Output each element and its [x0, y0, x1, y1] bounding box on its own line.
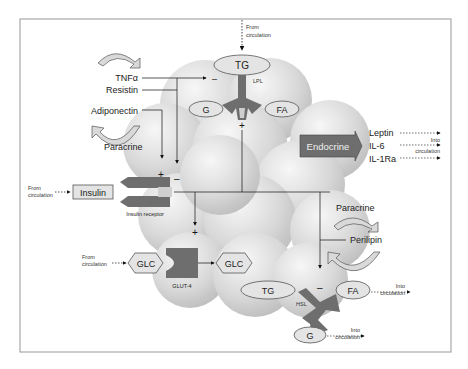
hsl-minus: – — [317, 282, 323, 293]
leptin-label: Leptin — [369, 128, 394, 138]
insulin-minus: – — [174, 173, 180, 184]
adiponectin-label: Adiponectin — [91, 106, 138, 116]
fa-into: Into — [396, 283, 405, 289]
tg-top-label: TG — [235, 60, 249, 71]
fa-bottom-label: FA — [347, 286, 358, 296]
il6-label: IL-6 — [369, 141, 385, 151]
glc-from-circulation-1: From — [82, 254, 95, 260]
hsl-label: HSL — [296, 301, 307, 307]
tg-bottom-label: TG — [262, 286, 275, 296]
tnf-alpha-label: TNFα — [115, 73, 138, 83]
endocrine-label: Endocrine — [307, 141, 350, 152]
insulin-from-circulation-1: From — [28, 185, 41, 191]
lpl-plus: + — [239, 120, 245, 131]
endocrine-into: Into — [431, 137, 440, 143]
g-circulation: circulation — [335, 334, 360, 340]
endocrine-circulation: circulation — [415, 148, 440, 154]
paracrine-left-label: Paracrine — [104, 142, 143, 152]
g-bottom-label: G — [306, 331, 313, 341]
g-top-label: G — [202, 105, 209, 115]
fa-circulation: circulation — [380, 290, 405, 296]
insulin-receptor-label: Insulin receptor — [126, 211, 164, 217]
g-into: Into — [351, 327, 360, 333]
il1ra-label: IL-1Ra — [369, 154, 396, 164]
lpl-label: LPL — [253, 78, 263, 84]
from-circulation-top: From — [246, 24, 259, 30]
paracrine-right-label: Paracrine — [336, 203, 375, 213]
glc-in-label: GLC — [137, 259, 156, 269]
insulin-from-circulation-2: circulation — [28, 192, 53, 198]
resistin-label: Resistin — [106, 85, 138, 95]
glc-out-label: GLC — [225, 259, 244, 269]
fa-top-label: FA — [276, 105, 287, 115]
lpl-minus: – — [212, 74, 217, 84]
insulin-label: Insulin — [80, 188, 106, 198]
adipocyte-signaling-diagram: From circulation TG LPL G FA + TNFα Resi… — [0, 0, 468, 369]
glc-from-circulation-2: circulation — [82, 261, 107, 267]
glut4-label: GLUT-4 — [172, 283, 191, 289]
glut4-plus: + — [192, 227, 198, 238]
perilipin-label: Perilipin — [350, 235, 382, 245]
from-circulation-top-2: circulation — [246, 32, 271, 38]
